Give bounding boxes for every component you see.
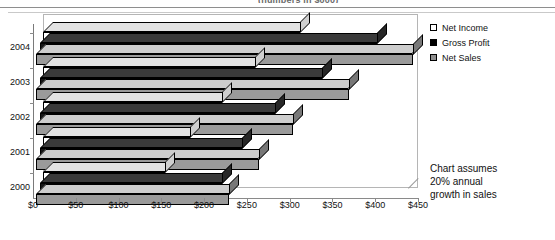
- note-line-1: Chart assumes: [430, 162, 550, 175]
- bar-top-face: [40, 103, 285, 113]
- legend-item-net-income: Net Income: [430, 22, 550, 33]
- bar-top-face: [43, 92, 232, 102]
- x-tick-mark: [119, 198, 120, 202]
- x-tick-mark: [290, 198, 291, 202]
- bar-net-sales-2003: [36, 79, 348, 90]
- bar-gross-profit-2000: [40, 173, 222, 184]
- bar-top-face: [43, 57, 265, 67]
- bar-top-face: [36, 44, 422, 54]
- y-axis-labels: 20042003200220012000: [0, 14, 30, 198]
- bar-net-income-2003: [43, 57, 255, 68]
- x-tick-mark: [204, 198, 205, 202]
- y-axis-label-2002: 2002: [0, 112, 30, 122]
- legend-label: Gross Profit: [442, 38, 490, 48]
- bar-top-face: [40, 68, 332, 78]
- note-line-2: 20% annual: [430, 175, 550, 188]
- x-tick-mark: [161, 198, 162, 202]
- gray-square-icon: [430, 54, 437, 61]
- black-square-icon: [430, 39, 437, 46]
- bar-net-sales-2001: [36, 149, 258, 160]
- x-tick-mark: [375, 198, 376, 202]
- bar-top-face: [36, 114, 303, 124]
- bar-top-face: [43, 162, 175, 172]
- legend-item-net-sales: Net Sales: [430, 52, 550, 63]
- legend-item-gross-profit: Gross Profit: [430, 37, 550, 48]
- bar-top-face: [36, 79, 358, 89]
- bar-net-income-2002: [43, 92, 222, 103]
- note-line-3: growth in sales: [430, 188, 550, 201]
- chart-legend: Net Income Gross Profit Net Sales: [430, 22, 550, 67]
- bar-gross-profit-2004: [40, 33, 377, 44]
- plot-area: [33, 14, 418, 198]
- x-tick-mark: [76, 198, 77, 202]
- x-axis-tick-labels: $0$50$100$150$200$250$300$350$400$450: [0, 200, 555, 214]
- bar-gross-profit-2003: [40, 68, 322, 79]
- y-axis-label-2003: 2003: [0, 77, 30, 87]
- bar-top-face: [40, 173, 232, 183]
- y-tick: [30, 103, 34, 104]
- y-axis-label-2004: 2004: [0, 42, 30, 52]
- bar-top-face: [40, 138, 252, 148]
- bar-gross-profit-2001: [40, 138, 242, 149]
- top-rule-secondary: [8, 12, 555, 13]
- bar-net-sales-2004: [36, 44, 412, 55]
- chart-screenshot: (numbers in $000) 20042003200220012000 $…: [0, 0, 555, 240]
- bar-gross-profit-2002: [40, 103, 275, 114]
- legend-label: Net Income: [442, 23, 488, 33]
- y-axis-label-2000: 2000: [0, 182, 30, 192]
- bar-net-income-2004: [43, 22, 300, 33]
- top-rule-primary: [0, 7, 555, 8]
- y-axis-line: [33, 24, 34, 198]
- bar-net-sales-2000: [36, 184, 229, 195]
- x-tick-mark: [247, 198, 248, 202]
- legend-label: Net Sales: [442, 53, 481, 63]
- bar-net-income-2000: [43, 162, 165, 173]
- bar-top-face: [36, 184, 239, 194]
- y-axis-label-2001: 2001: [0, 147, 30, 157]
- bar-net-income-2001: [43, 127, 190, 138]
- x-tick-mark: [332, 198, 333, 202]
- bar-top-face: [43, 22, 310, 32]
- bar-net-sales-2002: [36, 114, 293, 125]
- clipped-chart-title: (numbers in $000): [258, 0, 458, 3]
- y-tick: [30, 138, 34, 139]
- x-tick-mark: [418, 198, 419, 202]
- bar-top-face: [36, 149, 268, 159]
- y-tick: [30, 173, 34, 174]
- chart-note: Chart assumes 20% annual growth in sales: [430, 162, 550, 201]
- x-tick-label: $0: [13, 200, 53, 210]
- y-tick: [30, 33, 34, 34]
- bar-top-face: [43, 127, 200, 137]
- white-square-icon: [430, 24, 437, 31]
- bar-top-face: [40, 33, 387, 43]
- y-tick: [30, 68, 34, 69]
